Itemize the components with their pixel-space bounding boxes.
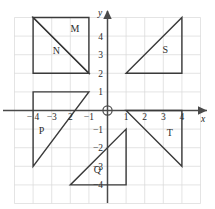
shape-label-q: Q [94, 164, 102, 175]
y-axis-arrowhead [103, 10, 111, 19]
shape-t [126, 111, 182, 167]
shape-label-t: T [167, 127, 173, 138]
shape-label-n: N [53, 45, 60, 56]
y-tick-label-2: 2 [98, 69, 103, 79]
shape-q [70, 129, 126, 185]
y-axis-label: y [97, 8, 103, 18]
shape-label-m: M [70, 23, 79, 34]
y-tick-label-neg2: −2 [93, 143, 103, 153]
coordinate-plane-svg: − 4−32−112344321−1−2−3−4 xy MNSPQT [0, 0, 215, 209]
x-tick-label-neg3: −3 [47, 112, 57, 122]
y-tick-label-neg1: −1 [93, 125, 103, 135]
x-tick-label-2: 2 [142, 112, 147, 122]
x-axis-label: x [200, 114, 206, 124]
coordinate-plane-figure: − 4−32−112344321−1−2−3−4 xy MNSPQT [0, 0, 215, 209]
x-tick-label-1: 1 [124, 112, 129, 122]
y-tick-label-1: 1 [98, 87, 103, 97]
y-tick-label-3: 3 [98, 50, 103, 60]
x-tick-label-neg1: −1 [84, 112, 94, 122]
x-tick-label-neg2: 2 [68, 112, 73, 122]
x-tick-label-4: 4 [180, 112, 185, 122]
x-tick-label-3: 3 [161, 112, 166, 122]
axis-name-labels: xy [97, 8, 206, 124]
shape-s [126, 18, 182, 74]
shape-n [33, 18, 89, 74]
shape-label-s: S [162, 44, 168, 55]
y-tick-label-neg4: −4 [93, 180, 103, 190]
shape-label-p: P [39, 125, 45, 136]
x-tick-label-neg4: − 4 [27, 112, 40, 122]
y-tick-label-4: 4 [98, 32, 103, 42]
